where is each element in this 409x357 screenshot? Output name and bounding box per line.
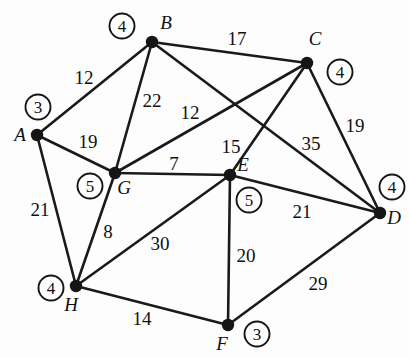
degree-badge-value-f: 3 — [253, 325, 262, 344]
edge-weight-f-d: 29 — [309, 273, 328, 294]
node-label-b: B — [160, 12, 172, 33]
degree-badge-value-e: 5 — [245, 191, 254, 210]
degree-badge-value-a: 3 — [34, 98, 43, 117]
graph-edge-a-b — [37, 42, 152, 135]
degree-badge-b: 4 — [110, 14, 135, 39]
node-label-c: C — [309, 28, 322, 49]
degree-badge-value-c: 4 — [336, 63, 345, 82]
degree-badge-value-b: 4 — [118, 17, 127, 36]
graph-node-e — [224, 169, 236, 181]
edge-weight-b-c: 17 — [228, 28, 247, 49]
graph-node-c — [301, 57, 313, 69]
graph-edge-c-g — [115, 63, 307, 173]
graph-edge-f-d — [228, 213, 380, 325]
node-label-f: F — [215, 333, 228, 354]
graph-canvas: 121921172235121519783021201429 ABCDEFGH … — [0, 0, 409, 357]
edge-weight-e-f: 20 — [237, 245, 256, 266]
degree-badge-g: 5 — [78, 174, 103, 199]
degree-badge-f: 3 — [245, 322, 270, 347]
node-label-e: E — [236, 154, 249, 175]
edge-weight-e-d: 21 — [293, 201, 312, 222]
graph-node-f — [222, 319, 234, 331]
degree-badge-d: 4 — [380, 175, 405, 200]
graph-node-a — [31, 129, 43, 141]
node-label-d: D — [386, 207, 401, 228]
degree-badge-e: 5 — [237, 188, 262, 213]
node-label-g: G — [117, 177, 131, 198]
graph-figure: 121921172235121519783021201429 ABCDEFGH … — [0, 0, 409, 357]
edge-weight-c-d: 19 — [346, 115, 365, 136]
degree-badge-value-h: 4 — [47, 279, 56, 298]
edge-weight-c-g: 12 — [181, 102, 200, 123]
degree-badge-a: 3 — [26, 95, 51, 120]
edge-weight-g-e: 7 — [169, 153, 179, 174]
graph-node-d — [374, 207, 386, 219]
graph-node-h — [70, 280, 82, 292]
edge-weight-e-h: 30 — [151, 233, 170, 254]
node-label-h: H — [63, 294, 79, 315]
graph-edge-e-f — [228, 175, 230, 325]
node-label-a: A — [12, 124, 26, 145]
edge-weight-a-b: 12 — [75, 67, 94, 88]
edge-weight-a-g: 19 — [79, 131, 98, 152]
degree-badge-value-g: 5 — [86, 177, 95, 196]
graph-edge-e-h — [76, 175, 230, 286]
edge-weight-b-d: 35 — [302, 133, 321, 154]
degree-badge-value-d: 4 — [388, 178, 397, 197]
edge-weight-a-h: 21 — [31, 199, 50, 220]
degree-badge-h: 4 — [39, 276, 64, 301]
edge-weight-b-g: 22 — [143, 90, 162, 111]
graph-node-b — [146, 36, 158, 48]
edge-weight-h-f: 14 — [133, 308, 153, 329]
degree-badge-c: 4 — [328, 60, 353, 85]
graph-edge-h-f — [76, 286, 228, 325]
edge-weight-g-h: 8 — [103, 221, 113, 242]
degree-badges-layer: 34445354 — [26, 14, 405, 347]
graph-edge-a-g — [37, 135, 115, 173]
